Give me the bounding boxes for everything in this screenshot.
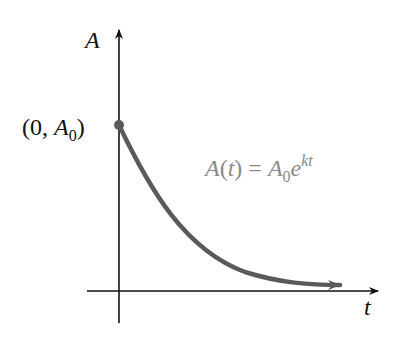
y-axis-label: A: [83, 27, 100, 53]
initial-point-label: (0, A0): [22, 114, 85, 144]
formula-label: A(t) = A0ekt: [203, 152, 313, 185]
decay-curve: [119, 125, 340, 285]
x-axis-label: t: [364, 294, 372, 320]
initial-point-dot: [114, 120, 124, 130]
exponential-decay-graph: A t (0, A0) A(t) = A0ekt: [0, 0, 400, 347]
